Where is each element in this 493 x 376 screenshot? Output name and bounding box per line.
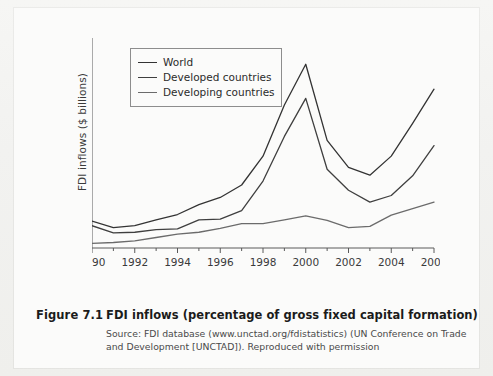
legend-item-world: World [138, 55, 273, 69]
figure-source-line-2: Development [UNCTAD]). Reproduced with p… [126, 341, 379, 352]
x-axis-tick-label: 2006 [421, 256, 440, 268]
figure-title: FDI inflows (percentage of gross fixed c… [106, 308, 478, 322]
legend-swatch-developing-countries [138, 92, 157, 93]
legend-label-developing-countries: Developing countries [163, 87, 275, 98]
figure-source: Source: FDI database (www.unctad.org/fdi… [14, 327, 479, 354]
x-axis-tick-label: 2000 [292, 256, 319, 268]
legend-label-developed-countries: Developed countries [163, 72, 271, 83]
legend-item-developing-countries: Developing countries [138, 85, 273, 99]
legend-swatch-world [138, 62, 157, 63]
x-axis-tick-label: 2004 [378, 256, 405, 268]
y-axis-title: FDI inflows ($ billions) [76, 73, 88, 191]
x-axis-tick-label: 1998 [250, 256, 277, 268]
x-axis-tick-label: 2002 [335, 256, 362, 268]
caption-title-row: Figure 7.1 FDI inflows (percentage of gr… [14, 308, 479, 322]
figure-caption: Figure 7.1 FDI inflows (percentage of gr… [14, 308, 479, 354]
legend-label-world: World [163, 57, 193, 68]
legend-item-developed-countries: Developed countries [138, 70, 273, 84]
x-axis-tick-label: 1994 [164, 256, 191, 268]
figure-page: FDI inflows ($ billions) 020040060080010… [14, 8, 479, 368]
x-axis-tick-label: 1990 [92, 256, 105, 268]
page-background: FDI inflows ($ billions) 020040060080010… [0, 0, 493, 376]
chart-legend: World Developed countries Developing cou… [130, 48, 282, 107]
legend-swatch-developed-countries [138, 77, 157, 78]
x-axis-tick-label: 1996 [207, 256, 234, 268]
chart-figure: FDI inflows ($ billions) 020040060080010… [14, 8, 479, 306]
figure-number: Figure 7.1 [36, 308, 106, 322]
x-axis-tick-label: 1992 [121, 256, 148, 268]
series-line-developed-countries [92, 98, 434, 233]
